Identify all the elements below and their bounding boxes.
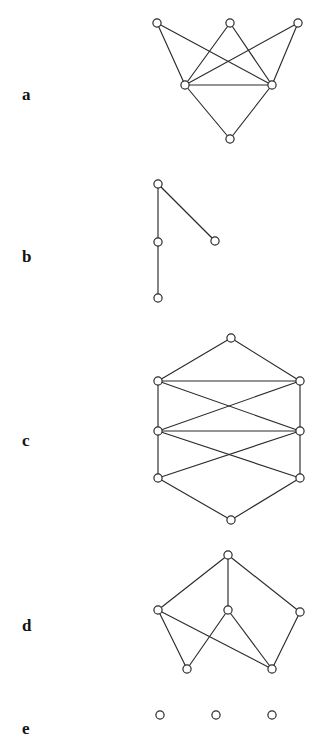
graph-edge [185, 23, 230, 85]
panel-label-b: b [22, 248, 31, 265]
graph-node [296, 427, 304, 435]
graph-node [268, 81, 276, 89]
graph-edge [230, 23, 272, 85]
graph-node [154, 427, 162, 435]
graph-node [181, 81, 189, 89]
graph-edge [158, 555, 228, 610]
graph-node [224, 606, 232, 614]
graph-node [268, 665, 276, 673]
graph-edge [157, 23, 185, 85]
panel-label-a: a [22, 86, 31, 103]
graph-node [224, 551, 232, 559]
graph-node [153, 19, 161, 27]
graph-panel-e [156, 711, 276, 719]
graph-node [296, 377, 304, 385]
graph-edge [158, 184, 215, 241]
graph-figure: abcde [0, 0, 326, 740]
panel-label-d: d [22, 617, 31, 634]
graph-node [227, 516, 235, 524]
graph-edge [158, 338, 231, 381]
graph-node [156, 711, 164, 719]
graph-node [296, 474, 304, 482]
graph-edge [185, 23, 298, 85]
graph-node [154, 238, 162, 246]
graph-node [154, 377, 162, 385]
graph-edge [185, 85, 230, 139]
graph-node [226, 19, 234, 27]
graph-edge [231, 478, 300, 520]
graph-node [183, 665, 191, 673]
graph-edge [158, 478, 231, 520]
graph-node [154, 294, 162, 302]
graph-node [226, 135, 234, 143]
graph-panel-b [154, 180, 219, 302]
graph-edge [231, 338, 300, 381]
graph-edge [157, 23, 272, 85]
graph-node [154, 180, 162, 188]
graph-panel-c [154, 334, 304, 524]
graph-edge [158, 610, 187, 669]
graph-edge [228, 610, 272, 669]
graph-edge [230, 85, 272, 139]
graph-edge [228, 555, 300, 612]
panel-label-e: e [22, 720, 30, 737]
graph-panel-d [154, 551, 304, 673]
graph-node [227, 334, 235, 342]
graph-node [268, 711, 276, 719]
panel-label-c: c [22, 432, 30, 449]
graph-node [296, 608, 304, 616]
graph-edge [158, 610, 272, 669]
graph-node [294, 19, 302, 27]
graph-edge [272, 23, 298, 85]
graph-panel-a [153, 19, 302, 143]
graph-node [154, 474, 162, 482]
graph-node [154, 606, 162, 614]
graph-node [211, 237, 219, 245]
graph-edge [187, 610, 228, 669]
graph-edge [272, 612, 300, 669]
graph-canvas [0, 0, 326, 740]
graph-node [212, 711, 220, 719]
